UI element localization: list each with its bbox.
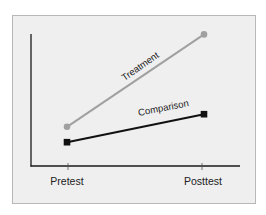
- data-point-treatment-pretest: [64, 124, 71, 131]
- data-point-comparison-pretest: [64, 139, 71, 146]
- x-tick-label-posttest: Posttest: [184, 175, 222, 187]
- data-point-comparison-posttest: [201, 111, 208, 118]
- x-tick-label-pretest: Pretest: [50, 175, 83, 187]
- data-point-treatment-posttest: [201, 31, 208, 38]
- chart: Pretest Posttest Treatment Comparison: [0, 0, 266, 215]
